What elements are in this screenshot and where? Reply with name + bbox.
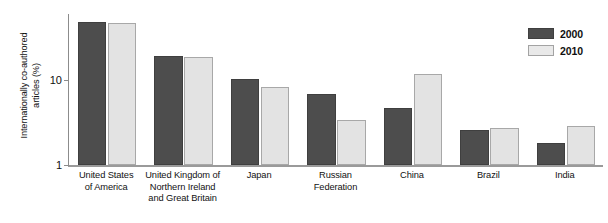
legend-swatch (528, 45, 554, 57)
x-axis-label: United Kingdom ofNorthern Irelandand Gre… (144, 170, 220, 205)
x-axis-label-line: United States (79, 170, 134, 180)
y-axis-tick-mark (64, 80, 69, 81)
x-axis-line (68, 165, 603, 167)
x-axis-category-labels: United Statesof AmericaUnited Kingdom of… (68, 170, 603, 222)
bar (184, 57, 213, 165)
x-axis-label-line: United Kingdom of (145, 170, 220, 180)
y-axis-tick-mark (64, 165, 69, 166)
bars-layer (69, 14, 603, 165)
y-axis-tick-label: 1 (56, 159, 62, 171)
x-axis-label: Brazil (450, 170, 526, 182)
legend-label: 2000 (560, 28, 583, 40)
x-axis-label-line: Brazil (477, 170, 500, 180)
x-axis-label-line: Northern Ireland (150, 182, 216, 192)
bar (414, 74, 443, 165)
bar (154, 56, 183, 165)
x-axis-label: United Statesof America (68, 170, 144, 193)
bar-chart: Internationally co-authored articles (%)… (0, 0, 608, 223)
x-axis-label-line: China (400, 170, 424, 180)
bar (337, 120, 366, 165)
legend-item[interactable]: 2000 (528, 26, 600, 41)
bar (384, 108, 413, 165)
x-axis-label-line: India (555, 170, 575, 180)
plot-area: 110 (68, 14, 603, 166)
y-axis-tick-label: 10 (50, 74, 62, 86)
bar (537, 143, 566, 165)
legend-label: 2010 (560, 45, 583, 57)
x-axis-label-line: Japan (247, 170, 272, 180)
x-axis-label-line: and Great Britain (148, 193, 217, 203)
x-axis-label: Russian Federation (297, 170, 373, 193)
bar (231, 79, 260, 165)
y-axis-title-line-1: Internationally co-authored (19, 32, 29, 138)
x-axis-label: India (527, 170, 603, 182)
legend-item[interactable]: 2010 (528, 43, 600, 58)
bar (460, 130, 489, 165)
bar (108, 23, 137, 165)
bar (78, 22, 107, 165)
x-axis-label-line: of America (85, 182, 128, 192)
legend-swatch (528, 28, 554, 40)
y-axis-title-line-2: articles (%) (30, 63, 40, 108)
bar (490, 128, 519, 165)
chart-legend: 20002010 (528, 26, 600, 60)
bar (261, 87, 290, 165)
x-axis-label: China (374, 170, 450, 182)
x-axis-label: Japan (221, 170, 297, 182)
bar (567, 126, 596, 165)
bar (307, 94, 336, 165)
x-axis-label-line: Russian Federation (314, 170, 357, 192)
